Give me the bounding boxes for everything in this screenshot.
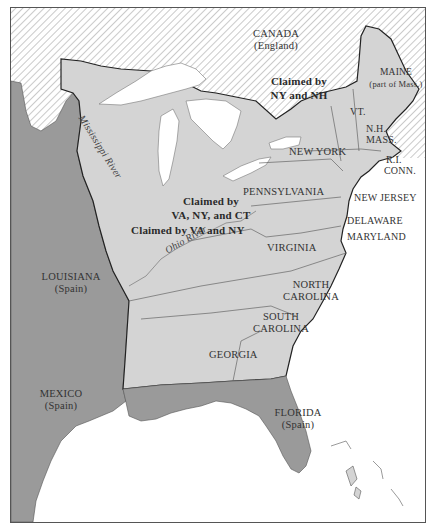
claim-ny-nh-line2: NY and NH <box>259 88 339 102</box>
mass-label: MASS. <box>366 134 397 146</box>
south-carolina-line1: SOUTH <box>251 311 311 323</box>
claim-ny-nh-line1: Claimed by <box>259 74 339 88</box>
virginia-label: VIRGINIA <box>267 242 316 254</box>
claim-va-ny-ct-line1: Claimed by <box>161 194 261 208</box>
mexico-owner: (Spain) <box>26 400 96 412</box>
claim-ny-nh-label: Claimed by NY and NH <box>259 74 339 102</box>
north-carolina-line1: NORTH <box>281 279 341 291</box>
maine-note: (part of Mass.) <box>361 78 426 90</box>
vt-label: VT. <box>350 106 366 118</box>
conn-label: CONN. <box>384 165 416 177</box>
florida-label: FLORIDA (Spain) <box>263 407 333 431</box>
new-york-label: NEW YORK <box>289 146 346 158</box>
canada-label: CANADA (England) <box>236 28 316 52</box>
bahamas-islands <box>331 441 403 506</box>
new-jersey-label: NEW JERSEY <box>354 192 417 204</box>
map-frame: CANADA (England) Claimed by NY and NH MA… <box>10 7 426 523</box>
maine-label: MAINE (part of Mass.) <box>361 66 426 90</box>
canada-name: CANADA <box>236 28 316 40</box>
maine-name: MAINE <box>361 66 426 78</box>
florida-name: FLORIDA <box>263 407 333 419</box>
delaware-label: DELAWARE <box>347 215 403 227</box>
south-carolina-line2: CAROLINA <box>251 323 311 335</box>
maryland-label: MARYLAND <box>347 231 406 243</box>
north-carolina-label: NORTH CAROLINA <box>281 279 341 303</box>
canada-owner: (England) <box>236 40 316 52</box>
claim-va-ny-ct-line2: VA, NY, and CT <box>161 208 261 222</box>
north-carolina-line2: CAROLINA <box>281 291 341 303</box>
mexico-name: MEXICO <box>26 388 96 400</box>
georgia-label: GEORGIA <box>209 349 258 361</box>
louisiana-name: LOUISIANA <box>31 271 111 283</box>
florida-owner: (Spain) <box>263 419 333 431</box>
mexico-label: MEXICO (Spain) <box>26 388 96 412</box>
louisiana-label: LOUISIANA (Spain) <box>31 271 111 295</box>
louisiana-owner: (Spain) <box>31 283 111 295</box>
claim-va-ny-ct-label: Claimed by VA, NY, and CT <box>161 194 261 222</box>
south-carolina-label: SOUTH CAROLINA <box>251 311 311 335</box>
